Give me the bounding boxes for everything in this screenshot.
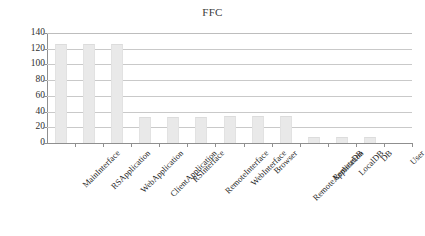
x-axis-tick-mark	[75, 143, 76, 147]
x-axis-tick-mark	[300, 143, 301, 147]
x-axis-category-labels: MainInterfaceRSApplicationWebApplication…	[0, 0, 425, 236]
x-axis-category-label: User	[408, 148, 425, 167]
x-axis-tick-mark	[244, 143, 245, 147]
x-axis-tick-mark	[412, 143, 413, 147]
x-axis-tick-mark	[187, 143, 188, 147]
x-axis-tick-mark	[159, 143, 160, 147]
bar-chart: FFC 020406080100120140 MainInterfaceRSAp…	[0, 0, 425, 236]
x-axis-tick-mark	[103, 143, 104, 147]
x-axis-tick-mark	[328, 143, 329, 147]
x-axis-tick-mark	[384, 143, 385, 147]
x-axis-tick-mark	[272, 143, 273, 147]
x-axis-tick-mark	[131, 143, 132, 147]
x-axis-category-label: RemoteDB	[330, 148, 364, 182]
x-axis-tick-mark	[215, 143, 216, 147]
x-axis-tick-mark	[356, 143, 357, 147]
